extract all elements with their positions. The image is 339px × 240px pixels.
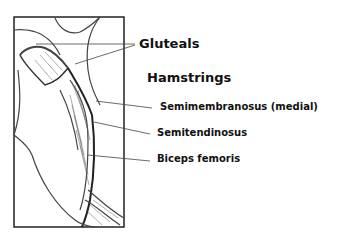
leg-drawing	[14, 17, 124, 227]
label-hamstrings: Hamstrings	[147, 70, 231, 85]
label-gluteals: Gluteals	[139, 36, 199, 51]
label-semitendinosus: Semitendinosus	[157, 127, 247, 138]
label-biceps-femoris: Biceps femoris	[157, 153, 240, 164]
label-semimembranosus: Semimembranosus (medial)	[160, 101, 318, 112]
